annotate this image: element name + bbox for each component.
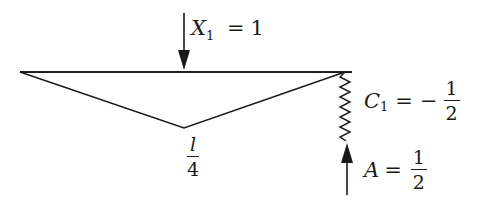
apex-fraction: l 4 bbox=[187, 135, 199, 179]
spring-sign: − bbox=[420, 91, 438, 112]
reaction-fraction: 1 2 bbox=[411, 148, 427, 192]
reaction-label: A = 1 2 bbox=[364, 148, 427, 192]
reaction-numerator: 1 bbox=[411, 148, 427, 169]
spring-symbol: C bbox=[364, 91, 380, 112]
reaction-denominator: 2 bbox=[413, 170, 425, 192]
spring-fraction: 1 2 bbox=[444, 79, 460, 123]
influence-triangle bbox=[20, 72, 345, 128]
spring-numerator: 1 bbox=[444, 79, 460, 100]
spring-subscript: 1 bbox=[380, 100, 388, 113]
load-subscript: 1 bbox=[206, 28, 214, 43]
spring-denominator: 2 bbox=[446, 101, 458, 123]
spring-equals: = bbox=[395, 91, 413, 112]
load-label: X1 =1 bbox=[191, 18, 264, 39]
reaction-symbol: A bbox=[364, 160, 379, 181]
influence-line-diagram: X1 =1 l 4 C1 = − 1 2 A = 1 2 bbox=[0, 0, 482, 204]
load-equals: = bbox=[227, 16, 245, 40]
spring-label: C1 = − 1 2 bbox=[364, 79, 460, 123]
reaction-arrow-icon bbox=[341, 143, 353, 195]
load-value: 1 bbox=[251, 16, 264, 40]
spring-icon bbox=[340, 72, 350, 141]
load-symbol: X bbox=[191, 16, 206, 40]
load-arrow-icon bbox=[178, 13, 190, 70]
reaction-equals: = bbox=[384, 160, 402, 181]
apex-numerator: l bbox=[188, 135, 198, 156]
apex-denominator: 4 bbox=[187, 157, 199, 179]
apex-label: l 4 bbox=[187, 135, 199, 179]
